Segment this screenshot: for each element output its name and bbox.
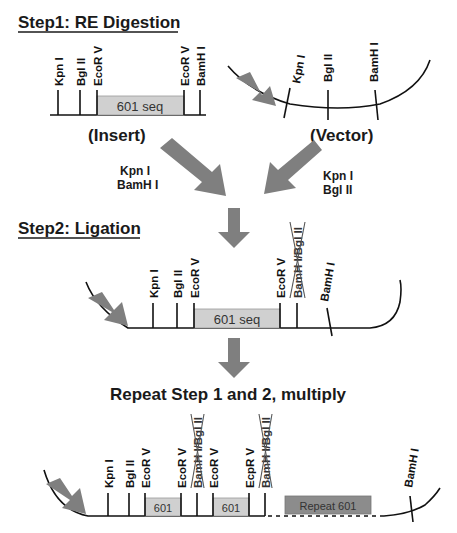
vector-enzyme-1: Kpn I — [323, 169, 353, 183]
insert-site-ecorv-1: EcoR V — [92, 45, 104, 86]
vector-enzyme-2: Bgl II — [323, 183, 352, 197]
vector-fragment: Kpn I Bgl II BamH I — [228, 42, 430, 120]
multimer-site-bamhi: BamH I — [402, 447, 421, 488]
insert-site-ecorv-2: EcoR V — [179, 45, 191, 86]
multimer-site-ecorv-1: EcoR V — [140, 447, 152, 488]
ligation-site-ecorv-2: EcoR V — [275, 257, 287, 298]
vector-arrow — [264, 140, 322, 194]
vector-site-bamhi: BamH I — [368, 42, 380, 82]
multimer-site-ecorv-3: EcoR V — [208, 447, 220, 488]
vector-site-bglii: Bgl II — [322, 54, 334, 82]
ligation-pointer-arrow — [88, 292, 128, 326]
step1-title: Step1: RE Digestion — [18, 13, 180, 32]
multimer-site-ecprv: EcpR V — [244, 447, 256, 488]
insert-enzyme-1: Kpn I — [120, 164, 150, 178]
multimer-site-kpni: Kpn I — [103, 459, 115, 488]
down-arrow-1 — [218, 208, 250, 248]
vector-label: (Vector) — [310, 126, 373, 145]
repeat-title: Repeat Step 1 and 2, multiply — [110, 385, 347, 404]
multimer-site-bglii: Bgl II — [124, 460, 136, 488]
vector-pointer-arrow — [236, 72, 276, 106]
insert-label: (Insert) — [88, 126, 146, 145]
step2-title: Step2: Ligation — [18, 219, 141, 238]
multimer-construct: 601 601 Repeat 601 Kpn I Bgl II EcoR V E… — [44, 414, 440, 522]
ligation-601-label: 601 seq — [214, 312, 260, 327]
insert-site-kpni: Kpn I — [53, 57, 65, 86]
repeat-601-label: Repeat 601 — [300, 500, 357, 512]
ligation-site-ecorv-1: EcoR V — [189, 257, 201, 298]
unit-601-label-1: 601 — [154, 502, 172, 514]
insert-enzyme-2: BamH I — [117, 178, 158, 192]
down-arrow-2 — [218, 338, 250, 378]
multimer-site-ecorv-2: EcoR V — [176, 447, 188, 488]
ligation-site-bamhi: BamH I — [318, 261, 337, 302]
multimer-pointer-arrow — [46, 478, 86, 514]
insert-601-label: 601 seq — [117, 99, 163, 114]
ligation-struck-site: BamH I/Bgl II — [290, 222, 305, 298]
unit-601-label-2: 601 — [222, 502, 240, 514]
ligated-construct: 601 seq Kpn I Bgl II EcoR V EcoR V BamH … — [86, 222, 401, 336]
ligation-site-kpni: Kpn I — [148, 269, 160, 298]
insert-arrow — [160, 138, 226, 196]
vector-site-kpni: Kpn I — [290, 54, 307, 84]
cloning-diagram: Step1: RE Digestion 601 seq Kpn I Bgl II… — [0, 0, 457, 533]
insert-fragment: 601 seq Kpn I Bgl II EcoR V EcoR V BamH … — [50, 45, 207, 115]
multimer-struck-site-1: BamH I/Bgl II — [191, 414, 204, 488]
insert-site-bglii: Bgl II — [75, 58, 87, 86]
multimer-struck-site-2: BamH I/Bgl II — [259, 414, 272, 488]
ligation-site-bglii: Bgl II — [172, 270, 184, 298]
insert-site-bamhi: BamH I — [195, 46, 207, 86]
